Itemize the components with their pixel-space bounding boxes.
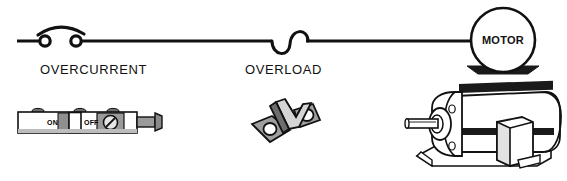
electric-motor <box>405 81 561 168</box>
heater-hole-left <box>264 123 277 135</box>
schematic-layer <box>0 0 567 181</box>
switch-blade-arc <box>38 27 84 35</box>
motor-shaft <box>407 119 438 128</box>
overload-heater-element <box>252 99 320 142</box>
overcurrent-switch-symbol <box>17 27 84 46</box>
label-motor: MOTOR <box>478 34 528 46</box>
breaker-off-label: OFF <box>84 119 99 126</box>
motor-bolt-boss-top <box>449 105 455 113</box>
breaker-bottom-shade <box>18 129 137 133</box>
breaker-terminal-shaft <box>137 117 155 127</box>
breaker-on-label: ON <box>47 119 58 126</box>
label-overcurrent: OVERCURRENT <box>40 62 147 77</box>
contact-terminal-left <box>40 36 50 46</box>
overload-scurve <box>272 32 308 54</box>
diagram-canvas: OVERCURRENT OVERLOAD MOTOR ON OFF <box>0 0 567 181</box>
overload-coil-symbol <box>272 32 308 54</box>
breaker-terminal-cap <box>155 113 162 131</box>
motor-junction-box-side <box>497 122 510 166</box>
motor-fin-band-top <box>459 81 553 93</box>
motor-shaft-end <box>405 119 409 128</box>
motor-bolt-boss-bottom <box>449 142 455 150</box>
label-overload: OVERLOAD <box>245 62 322 77</box>
contact-terminal-right <box>71 36 81 46</box>
